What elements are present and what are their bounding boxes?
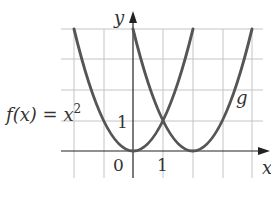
f-label: f(x) = x2 <box>4 102 81 125</box>
x-axis-arrow-icon <box>258 147 270 155</box>
x-axis <box>61 147 270 155</box>
y-axis-label: y <box>113 7 125 28</box>
y-axis-arrow-icon <box>129 11 137 23</box>
tick-x-0: 0 <box>113 155 124 175</box>
g-label: g <box>236 87 248 108</box>
tick-x-1: 1 <box>157 155 168 175</box>
x-axis-label: x <box>262 157 271 178</box>
tick-y-1: 1 <box>117 112 128 132</box>
graph: y x 0 1 1 g f(x) = x2 <box>0 0 271 199</box>
